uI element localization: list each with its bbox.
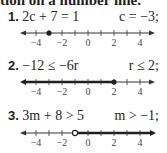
right-arrow-icon [150,130,156,136]
open-point-icon [72,130,77,135]
problem-3-row: 3. 3m + 8 > 5 m > −1; [8,108,163,124]
svg-text:2: 2 [112,137,117,148]
svg-text:−2: −2 [57,37,68,48]
number-line-1: −4 −2 0 2 4 [0,26,167,48]
svg-text:−2: −2 [57,86,68,97]
svg-text:4: 4 [138,86,143,97]
problem-answer: c = −3; [119,9,159,25]
svg-text:0: 0 [86,137,91,148]
problem-1-row: 1. 2c + 7 = 1 c = −3; [8,9,163,25]
number-line-3: −4 −2 0 2 4 [0,126,167,148]
problem-2-row: 2. −12 ≤ −6r r ≤ 2; [8,58,163,74]
svg-text:−4: −4 [31,86,42,97]
svg-text:2: 2 [112,86,117,97]
svg-text:4: 4 [138,37,143,48]
left-arrow-icon [20,79,26,85]
svg-text:−4: −4 [31,137,42,148]
left-arrow-icon [20,31,26,36]
svg-text:−2: −2 [57,137,68,148]
number-line-2: −4 −2 0 2 4 [0,75,167,97]
section-heading: tion on a number line. [0,0,141,9]
closed-point-icon [46,30,51,35]
problem-number: 3. [8,108,19,123]
svg-text:4: 4 [138,137,143,148]
problem-number: 1. [8,9,19,24]
problem-equation: −12 ≤ −6r [22,58,78,73]
problem-answer: m > −1; [114,108,159,124]
svg-text:2: 2 [112,37,117,48]
problem-equation: 3m + 8 > 5 [22,108,84,123]
left-arrow-icon [20,131,26,136]
problem-answer: r ≤ 2; [129,58,159,74]
problem-number: 2. [8,58,19,73]
right-arrow-icon [149,31,155,36]
right-arrow-icon [149,80,155,85]
svg-text:0: 0 [86,86,91,97]
problem-equation: 2c + 7 = 1 [22,9,79,24]
svg-text:−4: −4 [31,37,42,48]
svg-text:0: 0 [86,37,91,48]
closed-point-icon [111,79,116,84]
